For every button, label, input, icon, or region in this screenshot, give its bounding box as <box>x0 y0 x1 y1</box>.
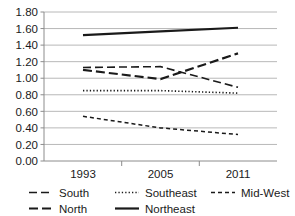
y-tick-label: 1.40 <box>16 39 38 51</box>
x-tick-label-2005: 2005 <box>148 168 174 180</box>
y-tick-label: 1.60 <box>16 23 38 35</box>
y-tick-label: 1.00 <box>16 72 38 84</box>
y-tick-label: 0.40 <box>16 122 38 134</box>
legend-label-northeast: Northeast <box>145 203 196 215</box>
series-line-south <box>83 67 238 88</box>
y-axis-labels: 1.80 1.60 1.40 1.20 1.00 0.80 0.60 0.40 … <box>16 6 38 167</box>
chart-canvas: 1.80 1.60 1.40 1.20 1.00 0.80 0.60 0.40 … <box>0 0 295 216</box>
line-chart: 1.80 1.60 1.40 1.20 1.00 0.80 0.60 0.40 … <box>0 0 295 216</box>
y-tick-label: 0.20 <box>16 139 38 151</box>
legend-label-mid-west: Mid-West <box>241 187 290 199</box>
x-tick-label-2011: 2011 <box>226 168 251 180</box>
legend-label-south: South <box>59 187 89 199</box>
legend: South Southeast Mid-West North Northeast <box>29 187 290 215</box>
legend-label-north: North <box>59 203 87 215</box>
y-tickmarks <box>41 12 45 161</box>
series-lines <box>83 28 238 135</box>
x-axis-labels: 1993 2005 2011 <box>70 168 250 180</box>
series-line-southeast <box>83 91 238 93</box>
series-line-mid-west <box>83 116 238 134</box>
y-tick-label: 1.20 <box>16 56 38 68</box>
y-tick-label: 0.60 <box>16 106 38 118</box>
y-tick-label: 1.80 <box>16 6 38 18</box>
y-tick-label: 0.00 <box>16 155 38 167</box>
x-tickmarks <box>122 161 200 166</box>
y-tick-label: 0.80 <box>16 89 38 101</box>
legend-label-southeast: Southeast <box>145 187 198 199</box>
x-tick-label-1993: 1993 <box>70 168 96 180</box>
